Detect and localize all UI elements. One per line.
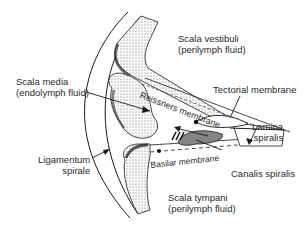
label-canalis-spiralis: Canalis spiralis xyxy=(231,168,295,179)
label-scala-vestibuli: Scala vestibuli (perilymph fluid) xyxy=(178,33,246,55)
label-scala-tympani: Scala tympani (perilymph fluid) xyxy=(168,192,236,214)
cochlea-illustration xyxy=(0,0,306,232)
organ-of-corti xyxy=(178,131,223,146)
label-ligamentum-spirale: Ligamentum spirale xyxy=(38,154,90,176)
label-scala-media: Scala media (endolymph fluid) xyxy=(16,76,89,98)
tectorial-membrane-pointer xyxy=(230,96,240,118)
label-lamina-spiralis: Lamina spiralis xyxy=(252,121,283,143)
label-tectorial-membrane: Tectorial membrane xyxy=(213,84,296,95)
basilar-membrane-line xyxy=(150,144,250,152)
cochlea-diagram: Scala vestibuli (perilymph fluid) Scala … xyxy=(0,0,306,232)
